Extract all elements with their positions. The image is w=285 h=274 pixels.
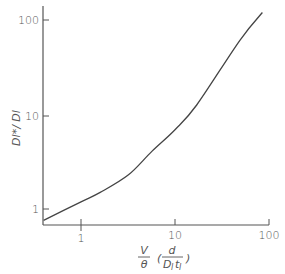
svg-text:): ) (185, 252, 190, 265)
data-curve (44, 13, 263, 221)
svg-text:(: ( (157, 252, 162, 265)
x-tick-label-100: 100 (259, 229, 280, 242)
y-tick-label-10: 10 (25, 110, 39, 123)
y-tick-label-100: 100 (18, 14, 39, 27)
svg-text:l: l (171, 263, 174, 272)
x-axis-label: V θ ( d D l t l ) (138, 244, 190, 272)
svg-text:d: d (169, 244, 177, 257)
line-chart: 100 10 1 1 10 100 Dl*/ Dl V θ ( d D l t … (0, 0, 285, 274)
y-axis-label: Dl*/ Dl (10, 110, 23, 146)
y-tick-label-1: 1 (32, 203, 39, 216)
svg-text:Dl*/ Dl: Dl*/ Dl (10, 110, 23, 146)
x-tick-label-1: 1 (78, 232, 85, 245)
svg-text:θ: θ (141, 258, 148, 271)
svg-text:V: V (140, 244, 149, 257)
x-tick-label-10: 10 (168, 229, 182, 242)
svg-text:l: l (179, 263, 182, 272)
